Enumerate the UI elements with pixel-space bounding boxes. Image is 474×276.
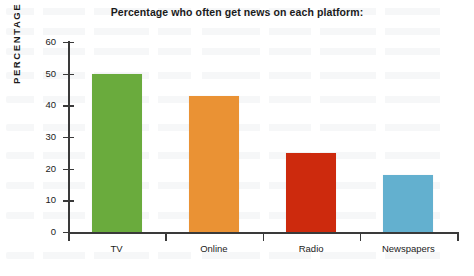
y-axis-title: PERCENTAGE xyxy=(11,3,22,84)
y-axis-tick-label: 20 xyxy=(30,162,56,175)
y-axis-tick-label: 60 xyxy=(30,35,56,48)
bar-online xyxy=(189,96,239,232)
x-axis-category-label: TV xyxy=(68,243,165,254)
x-axis-tick xyxy=(457,232,459,241)
y-axis-tick-label: 30 xyxy=(30,130,56,143)
y-axis-tick: 60 xyxy=(63,42,74,43)
y-axis-tick: 10 xyxy=(63,200,74,201)
y-axis-tick-label: 40 xyxy=(30,98,56,111)
y-axis-tick: 20 xyxy=(63,169,74,170)
x-axis-tick xyxy=(165,232,167,241)
bar-newspapers xyxy=(383,175,433,232)
bar-tv xyxy=(92,74,142,232)
x-axis-category-label: Radio xyxy=(263,243,360,254)
bar-chart-figure: Percentage who often get news on each pl… xyxy=(0,0,474,276)
y-axis-tick: 50 xyxy=(63,74,74,75)
plot-area: 0102030405060 xyxy=(68,42,457,232)
y-axis-tick-label: 10 xyxy=(30,193,56,206)
chart-title: Percentage who often get news on each pl… xyxy=(0,6,474,18)
bar-radio xyxy=(286,153,336,232)
x-axis-tick xyxy=(360,232,362,241)
y-axis-tick: 40 xyxy=(63,105,74,106)
y-axis-tick-label: 0 xyxy=(30,225,56,238)
x-axis-tick xyxy=(263,232,265,241)
x-axis-category-label: Newspapers xyxy=(360,243,457,254)
x-axis-tick xyxy=(68,232,70,241)
y-axis-tick: 30 xyxy=(63,137,74,138)
y-axis-tick-label: 50 xyxy=(30,67,56,80)
x-axis-category-label: Online xyxy=(165,243,262,254)
